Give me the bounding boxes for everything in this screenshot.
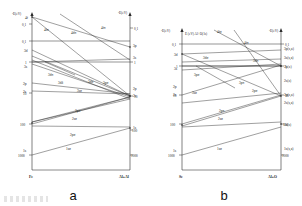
panel-b-mo-7: 2pσ — [252, 89, 257, 93]
panel-a-rtick-0: 0,1 — [134, 27, 139, 32]
panel-a-x-right-label: Al+Al — [119, 175, 129, 179]
panel-a-mo-4: 3dδ — [58, 81, 63, 85]
panel-a-mo-10: 3sσ — [77, 89, 82, 93]
panel-b-mo-4: 3pσ — [194, 73, 199, 77]
page-artifact — [4, 196, 48, 202]
panel-a-mo-1: 4dπ — [71, 31, 76, 35]
panel-b-ua-orb-4: 1s — [173, 149, 177, 153]
panel-b-ua-orb-2: 2p — [173, 85, 177, 89]
panel-a-mo-9: 2pσ — [70, 133, 75, 137]
panel-a-y-label-left: -E(eV) — [12, 12, 21, 16]
panel-b-tick-3: 100 — [170, 123, 175, 127]
panel-a-nodes — [31, 16, 131, 129]
panel-a-sa-orb-0: 3p — [133, 44, 137, 48]
panel-a-ua-orb-1: 3d — [24, 49, 28, 53]
panel-a-mo-11: 1sσ — [66, 147, 71, 151]
panel-a-x-left-label: Fe — [29, 175, 33, 179]
panel-b-mo-6: 3sσ — [192, 91, 197, 95]
panel-a-hatched-band — [32, 41, 130, 62]
panel-a-tick-5: 1000 — [18, 154, 25, 158]
panel-b-sa-orb-0: 3p(s,a) — [284, 47, 295, 52]
panel-a-y-label-right: -E(eV) — [118, 11, 127, 15]
panel-a-mo-5: 3dσ — [88, 80, 93, 84]
panel-a-mo-3: 3dπ — [48, 73, 53, 77]
panel-b-correlation-lines — [182, 30, 281, 155]
panel-a-rtick-1: 1 — [134, 61, 136, 65]
panel-b-sa-orb-2: 2p(z) — [284, 65, 292, 69]
panel-b-mo-9: 2sσ — [218, 117, 223, 121]
panel-a-tick-4: 100 — [20, 123, 25, 127]
panel-b-mo-5: 3pπ — [239, 81, 244, 85]
panel-b: -E(eV) -E(eV) E (eV) Al+O(1s) 0,1 1 10 1… — [151, 0, 302, 206]
panel-b-mo-10: 1sσ — [217, 147, 222, 151]
panel-b-left-ticks — [179, 44, 182, 155]
panel-a-sa-orb-2: 2p — [133, 87, 137, 91]
panel-a-mo-8: 2sσ — [72, 117, 77, 121]
panel-b-note: E (eV) Al+O(1s) — [185, 32, 207, 36]
panel-a-ua-orb-0: 4f — [25, 16, 29, 20]
panel-b-tick-4: 1000 — [168, 154, 175, 158]
panel-b-x-right-label: Al+O — [268, 175, 277, 179]
panel-b-ua-orb-0: 3d — [174, 53, 178, 57]
panel-b-rtick-4: 1000 — [282, 154, 289, 158]
panel-b-y-label-right: -E(eV) — [269, 29, 278, 33]
panel-b-mo-3: 3dπ — [253, 59, 258, 63]
panel-a-mo-0: 4fσ — [44, 28, 49, 32]
panel-b-x-left-label: Se — [179, 175, 183, 179]
panel-b-sa-orb-1: 3s(s,a) — [284, 56, 294, 61]
panel-b-sa-orb-5: 2s(s,a) — [284, 101, 294, 106]
panel-a-rtick-4: 1000 — [131, 154, 138, 158]
panel-a-ua-orb-2: 3s — [24, 65, 28, 69]
panel-a-left-axis-arrow — [30, 12, 33, 16]
panel-a-mo-6: 3pσ — [103, 81, 108, 85]
panel-a-sa-orb-1: 3s — [133, 56, 137, 60]
panel-a-mo-7: 2pπ — [75, 109, 80, 113]
panel-b-mo-8: 2pπ — [219, 109, 224, 113]
panel-a-mo-2: 4fπ — [101, 26, 106, 30]
panel-a: -E(eV) -E(eV) 0,1 0,1 1 10 100 1000 0,1 … — [0, 0, 151, 206]
panel-b-mo-0: 4fσ — [217, 30, 222, 34]
panel-b-right-axis-arrow — [279, 28, 282, 32]
panel-a-name: a — [69, 188, 77, 203]
panel-a-correlation-lines — [32, 14, 130, 155]
panel-a-ua-orb-5: 1s — [23, 149, 27, 153]
panel-a-right-axis-arrow — [128, 12, 131, 16]
panel-b-tick-0: 0,1 — [172, 43, 177, 48]
panel-a-tick-1: 0,1 — [22, 40, 27, 45]
panel-b-nodes — [181, 53, 282, 126]
panel-a-tick-0: 0,1 — [22, 23, 27, 28]
panel-b-left-axis-arrow — [180, 28, 183, 32]
panel-b-mo-1: 4fπ — [244, 41, 249, 45]
panel-b-right-ticks — [281, 44, 284, 155]
panel-b-mo-2: 3dσ — [203, 56, 208, 60]
panel-b-sa-orb-7: 1s(s,a) — [284, 147, 294, 152]
panel-b-hatched-band — [182, 44, 281, 66]
panel-b-sa-orb-6: 1s(z) — [284, 123, 292, 127]
panel-a-left-ticks — [29, 24, 32, 155]
panel-b-y-label-left: -E(eV) — [161, 29, 170, 33]
panel-a-ua-orb-3: 2p — [23, 82, 27, 86]
figure-canvas: -E(eV) -E(eV) 0,1 0,1 1 10 100 1000 0,1 … — [0, 0, 302, 206]
panel-b-sa-orb-3: 2s(z) — [284, 79, 292, 83]
panel-b-name: b — [220, 188, 227, 203]
